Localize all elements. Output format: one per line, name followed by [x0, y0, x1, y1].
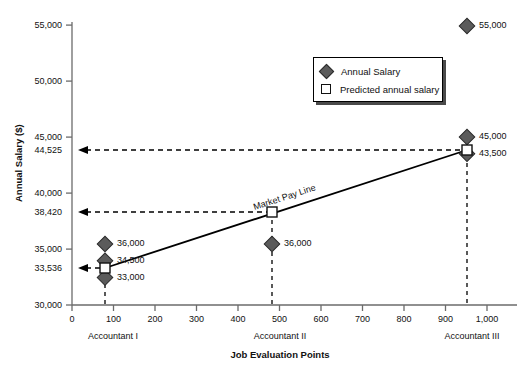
- y-axis-ticks: [66, 25, 72, 305]
- legend-label: Predicted annual salary: [340, 84, 439, 95]
- y-tick-label: 35,000: [18, 245, 62, 254]
- point-label-55000: 55,000: [479, 21, 507, 30]
- point-label-45000: 45,000: [479, 132, 507, 141]
- x-tick-label: 0: [52, 315, 92, 324]
- x-tick-label: 100: [94, 315, 134, 324]
- x-axis-title: Job Evaluation Points: [180, 350, 380, 360]
- point-label-36000-b: 36,000: [284, 239, 312, 248]
- y-tick-label: 55,000: [18, 21, 62, 30]
- diamond-marker-icon: [319, 63, 335, 79]
- square-marker-icon: [321, 84, 331, 94]
- x-axis-ticks: [72, 305, 487, 311]
- chart-legend: Annual Salary Predicted annual salary: [313, 57, 443, 102]
- point-label-33000: 33,000: [117, 273, 145, 282]
- y-tick-label: 30,000: [18, 301, 62, 310]
- leader-arrowheads: [78, 146, 88, 272]
- market-pay-line: [105, 150, 467, 268]
- x-tick-label: 500: [260, 315, 300, 324]
- point-label-43500: 43,500: [479, 149, 507, 158]
- point-label-36000-a: 36,000: [117, 239, 145, 248]
- y-extra-label-38420: 38,420: [18, 208, 62, 217]
- x-tick-label: 600: [301, 315, 341, 324]
- y-tick-label: 50,000: [18, 77, 62, 86]
- x-tick-label: 800: [384, 315, 424, 324]
- category-label-accountant-1: Accountant I: [68, 332, 158, 341]
- category-label-accountant-3: Accountant III: [424, 332, 520, 341]
- legend-item-predicted-salary: Predicted annual salary: [314, 81, 442, 97]
- x-tick-label: 200: [135, 315, 175, 324]
- y-tick-label: 45,000: [18, 133, 62, 142]
- point-label-34500: 34,500: [117, 256, 145, 265]
- category-label-accountant-2: Accountant II: [235, 332, 325, 341]
- y-tick-label: 40,000: [18, 189, 62, 198]
- x-tick-label: 1,000: [467, 315, 507, 324]
- y-extra-label-44525: 44,525: [18, 146, 62, 155]
- legend-item-annual-salary: Annual Salary: [314, 63, 442, 79]
- legend-label: Annual Salary: [341, 66, 400, 77]
- x-tick-label: 300: [177, 315, 217, 324]
- chart-container: 55,000 50,000 45,000 44,525 40,000 38,42…: [0, 0, 525, 372]
- y-extra-label-33536: 33,536: [18, 264, 62, 273]
- x-tick-label: 900: [426, 315, 466, 324]
- y-axis-title: Annual Salary ($): [14, 124, 24, 202]
- x-tick-label: 700: [343, 315, 383, 324]
- drop-lines: [105, 155, 467, 305]
- x-tick-label: 400: [218, 315, 258, 324]
